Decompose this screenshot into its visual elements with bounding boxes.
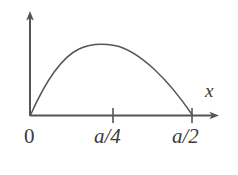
tick-label-a-over-4: a/4	[94, 126, 121, 147]
tick-label-a-over-2: a/2	[172, 126, 199, 147]
y-axis-group	[26, 11, 34, 116]
x-axis-label: x	[205, 81, 213, 100]
figure-container: x 0 a/4 a/2	[0, 0, 238, 175]
tick-label-origin: 0	[24, 126, 35, 147]
plot-canvas	[0, 0, 238, 175]
sine-arch-curve	[31, 44, 193, 115]
